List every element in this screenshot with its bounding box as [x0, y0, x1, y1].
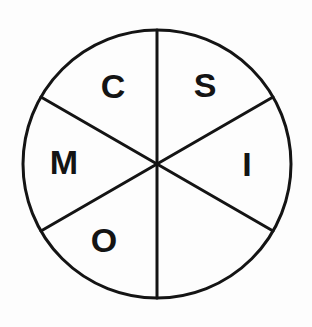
- sector-label-left: M: [50, 145, 78, 179]
- sector-label-right: I: [242, 147, 251, 181]
- diagram-canvas: C S I O M: [0, 0, 312, 327]
- sector-label-upper-left: C: [101, 69, 126, 103]
- sector-label-upper-right: S: [194, 68, 217, 102]
- sector-label-lower-left: O: [91, 223, 117, 257]
- sectored-circle-graphic: [0, 0, 312, 327]
